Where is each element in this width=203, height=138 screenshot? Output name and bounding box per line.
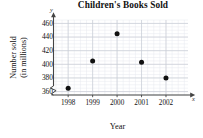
plot-area bbox=[0, 0, 203, 138]
data-point-2001 bbox=[139, 60, 144, 65]
data-point-2002 bbox=[163, 75, 168, 80]
data-point-1998 bbox=[66, 86, 71, 91]
data-point-2000 bbox=[115, 31, 120, 36]
minor-gridlines bbox=[54, 20, 189, 95]
chart-container: Children's Books Sold Number sold (in mi… bbox=[0, 0, 203, 138]
data-point-1999 bbox=[90, 58, 95, 63]
